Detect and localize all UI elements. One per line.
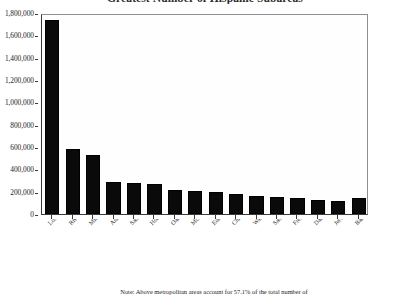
y-tick-mark [35, 148, 39, 149]
bar [168, 190, 182, 214]
x-axis-labels: Los Angeles, Long Beach, Calif.Riverside… [0, 219, 398, 281]
y-tick-label: 600,000 [10, 144, 34, 151]
chart-footnote: Note: Above metropolitan areas account f… [44, 288, 384, 296]
bar [249, 196, 263, 214]
bar [270, 197, 284, 214]
y-tick-label: 1,600,000 [5, 33, 34, 40]
x-tick-label: Bakersfield, Calif. [354, 219, 390, 226]
y-tick-label: 1,400,000 [5, 55, 34, 62]
bar [352, 198, 366, 214]
bar [147, 184, 161, 214]
y-tick-label: 1,200,000 [5, 77, 34, 84]
y-tick-label: 1,800,000 [5, 10, 34, 17]
bar [188, 191, 202, 214]
bar [106, 182, 120, 214]
y-tick-mark [35, 36, 39, 37]
bar [209, 192, 223, 214]
bar [86, 155, 100, 214]
y-tick-mark [35, 193, 39, 194]
bar [45, 20, 59, 214]
chart-title: Greatest Number of Hispanic Subareas [40, 0, 370, 4]
bar-series [42, 15, 367, 214]
y-tick-mark [35, 103, 39, 104]
bar [290, 198, 304, 214]
bar [229, 194, 243, 214]
y-tick-label: 200,000 [10, 189, 34, 196]
bar [127, 183, 141, 214]
y-tick-label: 800,000 [10, 122, 34, 129]
y-tick-mark [35, 81, 39, 82]
y-tick-label: 0 [30, 211, 34, 218]
y-tick-label: 400,000 [10, 167, 34, 174]
bar [311, 200, 325, 214]
y-tick-mark [35, 59, 39, 60]
y-tick-mark [35, 170, 39, 171]
plot-area [41, 14, 368, 215]
y-axis: 1,800,0001,600,0001,400,0001,200,0001,00… [0, 14, 38, 215]
y-tick-mark [35, 14, 39, 15]
y-tick-mark [35, 126, 39, 127]
chart-figure: Greatest Number of Hispanic Subareas 1,8… [0, 0, 398, 300]
bar [66, 149, 80, 214]
y-tick-mark [35, 215, 39, 216]
y-tick-label: 1,000,000 [5, 100, 34, 107]
bar [331, 201, 345, 214]
